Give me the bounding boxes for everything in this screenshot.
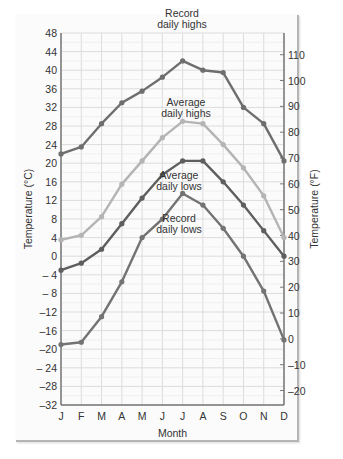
y-tick-label-left: 28: [45, 120, 57, 132]
y-tick-label-left: 4: [51, 232, 57, 244]
data-point-average-daily-highs: [99, 214, 104, 219]
series-annotation: daily highs: [157, 18, 207, 30]
y-tick-label-left: –28: [39, 380, 57, 392]
data-point-record-daily-highs: [221, 70, 226, 75]
x-tick-label: O: [239, 410, 247, 422]
data-point-average-daily-lows: [139, 195, 144, 200]
data-point-record-daily-highs: [139, 89, 144, 94]
data-point-average-daily-highs: [160, 135, 165, 140]
x-tick-label: F: [78, 410, 84, 422]
data-point-record-daily-lows: [241, 254, 246, 259]
series-annotation: daily highs: [161, 107, 211, 119]
data-point-record-daily-lows: [79, 340, 84, 345]
y-tick-label-right: 80: [288, 126, 300, 138]
data-point-average-daily-lows: [281, 254, 286, 259]
y-tick-label-left: –20: [39, 343, 57, 355]
temperature-chart: 48444036322824201612840– 4– 8–12–16–20– …: [0, 0, 343, 459]
data-point-record-daily-highs: [79, 144, 84, 149]
data-point-record-daily-lows: [281, 337, 286, 342]
data-point-average-daily-lows: [200, 158, 205, 163]
y-tick-label-right: 0: [288, 333, 294, 345]
y-tick-label-right: –20: [288, 385, 306, 397]
data-point-record-daily-highs: [180, 58, 185, 63]
data-point-average-daily-highs: [180, 119, 185, 124]
data-point-average-daily-lows: [180, 158, 185, 163]
data-point-record-daily-highs: [281, 158, 286, 163]
data-point-average-daily-highs: [261, 193, 266, 198]
data-point-average-daily-highs: [79, 233, 84, 238]
y-tick-label-right: 70: [288, 152, 300, 164]
data-point-record-daily-lows: [139, 235, 144, 240]
data-point-average-daily-highs: [119, 182, 124, 187]
y-tick-label-left: 44: [45, 46, 57, 58]
data-point-record-daily-highs: [261, 121, 266, 126]
x-tick-label: A: [118, 410, 125, 422]
y-tick-label-right: 30: [288, 255, 300, 267]
data-point-record-daily-lows: [261, 288, 266, 293]
y-tick-label-right: 10: [288, 307, 300, 319]
y-tick-label-right: 100: [288, 75, 306, 87]
series-annotation: daily lows: [156, 223, 202, 235]
y-tick-label-left: 20: [45, 157, 57, 169]
data-point-average-daily-lows: [99, 247, 104, 252]
y-tick-label-left: 8: [51, 213, 57, 225]
x-tick-label: S: [220, 410, 227, 422]
data-point-average-daily-highs: [221, 142, 226, 147]
series-annotation: daily lows: [156, 180, 202, 192]
data-point-record-daily-lows: [58, 342, 63, 347]
y-tick-label-left: – 4: [42, 269, 57, 281]
y-tick-label-left: 48: [45, 27, 57, 39]
y-tick-label-left: – 24: [37, 362, 58, 374]
y-tick-label-right: 20: [288, 281, 300, 293]
data-point-record-daily-highs: [241, 105, 246, 110]
data-point-record-daily-highs: [160, 75, 165, 80]
y-axis-label-left: Temperature (°C): [22, 169, 34, 250]
data-point-average-daily-highs: [139, 158, 144, 163]
y-tick-label-left: 32: [45, 101, 57, 113]
data-point-average-daily-lows: [119, 221, 124, 226]
data-point-record-daily-lows: [221, 226, 226, 231]
x-axis-label: Month: [158, 427, 187, 439]
data-point-record-daily-highs: [200, 68, 205, 73]
x-tick-label: N: [260, 410, 268, 422]
data-point-average-daily-highs: [58, 237, 63, 242]
data-point-record-daily-highs: [58, 151, 63, 156]
x-tick-label: M: [97, 410, 106, 422]
data-point-record-daily-lows: [99, 314, 104, 319]
y-tick-label-left: 40: [45, 64, 57, 76]
y-tick-label-right: 40: [288, 230, 300, 242]
data-point-average-daily-lows: [261, 228, 266, 233]
y-axis-label-right: Temperature (°F): [308, 169, 320, 248]
x-tick-label: J: [58, 410, 63, 422]
y-tick-label-right: –10: [288, 359, 306, 371]
data-point-average-daily-lows: [241, 202, 246, 207]
x-tick-label: A: [199, 410, 206, 422]
y-tick-label-left: – 8: [42, 287, 57, 299]
y-tick-label-left: 12: [45, 194, 57, 206]
data-point-average-daily-highs: [281, 235, 286, 240]
data-point-record-daily-lows: [119, 279, 124, 284]
y-ticks-left: 48444036322824201612840– 4– 8–12–16–20– …: [37, 27, 58, 411]
y-tick-label-left: 36: [45, 83, 57, 95]
y-tick-label-left: –12: [39, 306, 57, 318]
x-ticks: JFMAMJJASOND: [58, 410, 288, 422]
y-tick-label-left: 0: [51, 250, 57, 262]
x-tick-label: M: [138, 410, 147, 422]
y-tick-label-right: 110: [288, 49, 305, 61]
x-tick-label: J: [180, 410, 185, 422]
y-tick-label-left: –16: [39, 325, 57, 337]
data-point-average-daily-lows: [79, 261, 84, 266]
data-point-average-daily-lows: [221, 179, 226, 184]
data-point-average-daily-highs: [200, 121, 205, 126]
y-tick-label-right: 90: [288, 100, 300, 112]
y-tick-label-left: 24: [45, 139, 57, 151]
y-tick-label-left: –32: [39, 399, 57, 411]
x-tick-label: J: [160, 410, 165, 422]
x-tick-label: D: [280, 410, 288, 422]
y-tick-label-right: 60: [288, 178, 300, 190]
data-point-average-daily-lows: [58, 268, 63, 273]
data-point-record-daily-lows: [200, 202, 205, 207]
y-tick-label-left: 16: [45, 176, 57, 188]
data-point-record-daily-highs: [119, 100, 124, 105]
data-point-average-daily-highs: [241, 165, 246, 170]
